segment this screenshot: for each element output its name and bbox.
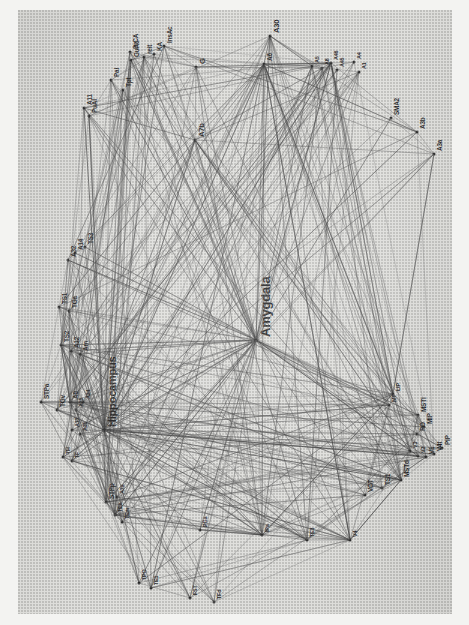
graph-node bbox=[416, 433, 419, 436]
graph-node bbox=[353, 61, 356, 64]
graph-node bbox=[62, 456, 65, 459]
graph-node bbox=[71, 429, 74, 432]
graph-node bbox=[381, 487, 384, 490]
graph-node bbox=[60, 344, 63, 347]
graph-node bbox=[130, 59, 133, 62]
graph-node bbox=[84, 246, 87, 249]
graph-node bbox=[163, 45, 166, 48]
figure-plate: A30GInsAcKAreitGuAcPrCAPalTptA11PuAIA7bA… bbox=[18, 10, 452, 614]
graph-node bbox=[195, 66, 198, 69]
graph-node bbox=[388, 404, 391, 407]
graph-node bbox=[67, 259, 70, 262]
graph-node bbox=[69, 401, 72, 404]
graph-node bbox=[269, 35, 272, 38]
graph-node bbox=[79, 433, 82, 436]
graph-node bbox=[336, 69, 339, 72]
graph-node bbox=[71, 460, 74, 463]
graph-node bbox=[433, 153, 436, 156]
graph-node bbox=[416, 131, 419, 134]
graph-node bbox=[110, 79, 113, 82]
graph-node bbox=[40, 401, 43, 404]
graph-node bbox=[58, 306, 61, 309]
scanned-page: A30GInsAcKAreitGuAcPrCAPalTptA11PuAIA7bA… bbox=[0, 0, 469, 625]
graph-node bbox=[254, 338, 258, 342]
graph-node bbox=[409, 450, 412, 453]
graph-node bbox=[425, 456, 428, 459]
graph-node bbox=[213, 601, 216, 604]
graph-node bbox=[194, 139, 197, 142]
graph-node bbox=[199, 529, 202, 532]
graph-node bbox=[400, 479, 403, 482]
graph-node bbox=[261, 534, 264, 537]
graph-node bbox=[74, 252, 77, 255]
graph-node bbox=[70, 350, 73, 353]
graph-node bbox=[364, 494, 367, 497]
graph-node bbox=[441, 447, 444, 450]
graph-node bbox=[68, 310, 71, 313]
graph-node bbox=[105, 501, 108, 504]
graph-node bbox=[189, 597, 192, 600]
graph-node bbox=[390, 117, 393, 120]
graph-node bbox=[121, 521, 124, 524]
graph-node bbox=[79, 353, 82, 356]
graph-node bbox=[423, 426, 426, 429]
graph-node bbox=[433, 453, 436, 456]
graph-node bbox=[88, 115, 91, 118]
graph-node bbox=[150, 587, 153, 590]
graph-node bbox=[417, 414, 420, 417]
graph-node bbox=[358, 71, 361, 74]
graph-node bbox=[392, 393, 395, 396]
graph-node bbox=[306, 539, 309, 542]
graph-node bbox=[82, 401, 85, 404]
graph-node bbox=[153, 53, 156, 56]
graph-node bbox=[116, 496, 119, 499]
graph-node bbox=[56, 409, 59, 412]
graph-node bbox=[263, 63, 266, 66]
connectivity-graph bbox=[18, 10, 452, 614]
graph-node bbox=[83, 107, 86, 110]
graph-node bbox=[321, 67, 324, 70]
graph-node bbox=[330, 62, 333, 65]
graph-node bbox=[417, 455, 420, 458]
graph-node bbox=[129, 51, 132, 54]
graph-node bbox=[143, 56, 146, 59]
graph-node bbox=[349, 539, 352, 542]
graph-node bbox=[102, 428, 106, 432]
graph-node bbox=[138, 582, 141, 585]
graph-node bbox=[75, 409, 78, 412]
graph-node bbox=[114, 514, 117, 517]
edge-layer bbox=[41, 36, 442, 602]
graph-node bbox=[122, 89, 125, 92]
graph-node bbox=[311, 65, 314, 68]
